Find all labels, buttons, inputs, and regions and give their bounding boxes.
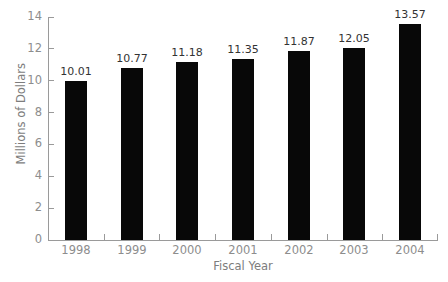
bar <box>176 62 198 240</box>
x-axis-category-label: 2000 <box>157 245 217 257</box>
x-axis-category-label: 1998 <box>46 245 106 257</box>
bar-value-label: 12.05 <box>324 33 384 44</box>
bar <box>232 59 254 240</box>
x-axis-category-label: 2004 <box>380 245 440 257</box>
x-axis-tick <box>327 234 328 241</box>
x-axis-category-label: 2001 <box>213 245 273 257</box>
bar <box>288 51 310 240</box>
bar-value-label: 11.18 <box>157 47 217 58</box>
y-axis-tick <box>48 112 54 113</box>
x-axis-end-tick <box>437 234 438 241</box>
bar-value-label: 10.77 <box>102 53 162 64</box>
bar-value-label: 11.87 <box>269 36 329 47</box>
x-axis-category-label: 2002 <box>269 245 329 257</box>
y-axis-tick <box>48 48 54 49</box>
y-axis-title: Millions of Dollars <box>16 44 28 184</box>
x-axis-tick <box>215 234 216 241</box>
y-axis-tick <box>48 240 54 241</box>
x-axis-category-label: 2003 <box>324 245 384 257</box>
bar-value-label: 13.57 <box>380 9 440 20</box>
bar <box>121 68 143 240</box>
x-axis-line <box>48 240 438 241</box>
x-axis-title: Fiscal Year <box>48 261 438 273</box>
y-axis-tick <box>48 17 54 18</box>
x-axis-category-label: 1999 <box>102 245 162 257</box>
y-axis-tick-label: 2 <box>0 202 42 214</box>
y-axis-tick-label: 0 <box>0 234 42 246</box>
bar-value-label: 11.35 <box>213 44 273 55</box>
x-axis-tick <box>271 234 272 241</box>
bar <box>399 24 421 240</box>
bar <box>65 81 87 240</box>
x-axis-tick <box>104 234 105 241</box>
y-axis-tick <box>48 80 54 81</box>
x-axis-tick <box>382 234 383 241</box>
y-axis-tick <box>48 144 54 145</box>
bar-value-label: 10.01 <box>46 66 106 77</box>
y-axis-tick-label: 14 <box>0 11 42 23</box>
y-axis-tick <box>48 176 54 177</box>
x-axis-tick <box>159 234 160 241</box>
bar <box>343 48 365 240</box>
bar-chart: 02468101214 1998199920002001200220032004… <box>0 0 448 282</box>
y-axis-tick <box>48 208 54 209</box>
